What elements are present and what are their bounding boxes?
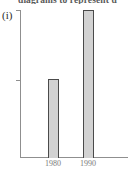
bar-1980: [48, 79, 59, 158]
bar-chart-plot: 1980 1990: [0, 0, 134, 169]
y-axis-line: [20, 10, 21, 158]
y-tick-mid: [16, 80, 20, 81]
y-tick-top: [16, 10, 20, 11]
x-tick-label-1980: 1980: [40, 159, 66, 168]
x-axis-line: [20, 157, 128, 158]
x-tick-label-1990: 1990: [75, 159, 101, 168]
figure-container: diagrams to represent d (i) 1980 1990: [0, 0, 134, 169]
bar-1990: [83, 10, 94, 158]
